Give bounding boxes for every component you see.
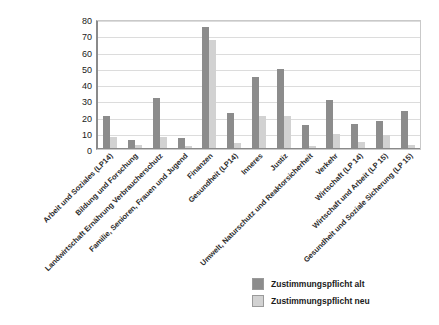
legend-item-alt[interactable]: Zustimmungspflicht alt bbox=[252, 278, 370, 290]
bar-neu[interactable] bbox=[259, 116, 266, 148]
y-tick-label-20: 20 bbox=[82, 115, 92, 124]
bar-group bbox=[395, 21, 420, 148]
bar-group bbox=[197, 21, 222, 148]
plot-wrap: 01020304050607080 bbox=[96, 20, 421, 150]
bar-group bbox=[123, 21, 148, 148]
y-tick-label-0: 0 bbox=[87, 147, 92, 156]
bar-alt[interactable] bbox=[376, 121, 383, 148]
bar-alt[interactable] bbox=[277, 69, 284, 148]
legend-label-alt: Zustimmungspflicht alt bbox=[271, 280, 365, 289]
bar-alt[interactable] bbox=[351, 124, 358, 148]
y-tick-label-80: 80 bbox=[82, 17, 92, 26]
x-axis-line bbox=[97, 148, 420, 149]
y-tick-label-40: 40 bbox=[82, 82, 92, 91]
bar-alt[interactable] bbox=[252, 77, 259, 148]
bar-alt[interactable] bbox=[178, 138, 185, 148]
chart-legend: Zustimmungspflicht alt Zustimmungspflich… bbox=[252, 278, 370, 312]
bar-group bbox=[247, 21, 272, 148]
bar-chart: 01020304050607080 Arbeit und Soziales (L… bbox=[0, 0, 439, 325]
plot-area: 01020304050607080 bbox=[96, 20, 421, 150]
bar-group bbox=[222, 21, 247, 148]
bar-alt[interactable] bbox=[326, 100, 333, 148]
legend-swatch-alt bbox=[252, 278, 264, 290]
bar-alt[interactable] bbox=[302, 125, 309, 148]
y-tick-label-30: 30 bbox=[82, 98, 92, 107]
legend-label-neu: Zustimmungspflicht neu bbox=[271, 297, 370, 306]
bar-alt[interactable] bbox=[227, 113, 234, 148]
bar-group bbox=[271, 21, 296, 148]
bar-neu[interactable] bbox=[160, 137, 167, 148]
y-tick-label-50: 50 bbox=[82, 66, 92, 75]
bar-alt[interactable] bbox=[128, 140, 135, 148]
bar-group bbox=[321, 21, 346, 148]
bar-alt[interactable] bbox=[202, 27, 209, 148]
bar-neu[interactable] bbox=[333, 134, 340, 149]
bar-series-container bbox=[98, 21, 420, 148]
y-axis-line bbox=[97, 21, 98, 149]
bar-group bbox=[370, 21, 395, 148]
bar-group bbox=[148, 21, 173, 148]
y-tick-label-10: 10 bbox=[82, 131, 92, 140]
bar-alt[interactable] bbox=[153, 98, 160, 148]
bar-alt[interactable] bbox=[401, 111, 408, 148]
bar-alt[interactable] bbox=[103, 116, 110, 148]
bar-neu[interactable] bbox=[284, 116, 291, 148]
bar-group bbox=[98, 21, 123, 148]
bar-group bbox=[296, 21, 321, 148]
legend-item-neu[interactable]: Zustimmungspflicht neu bbox=[252, 295, 370, 307]
bar-neu[interactable] bbox=[383, 135, 390, 148]
legend-swatch-neu bbox=[252, 295, 264, 307]
bar-neu[interactable] bbox=[110, 137, 117, 148]
bar-group bbox=[346, 21, 371, 148]
y-tick-label-60: 60 bbox=[82, 50, 92, 59]
y-tick-label-70: 70 bbox=[82, 33, 92, 42]
bar-group bbox=[172, 21, 197, 148]
bar-neu[interactable] bbox=[209, 40, 216, 148]
